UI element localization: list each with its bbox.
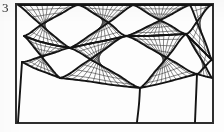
block-boundary <box>186 5 212 60</box>
edge-lower-left-diagonal <box>18 62 22 122</box>
figure-root: 3 <box>0 0 224 132</box>
edge-lower-right-drop <box>195 74 197 122</box>
block-boundary <box>60 36 140 88</box>
mesh-diagram <box>0 0 224 132</box>
block-boundary <box>126 5 190 36</box>
grid-line-v <box>155 35 170 85</box>
edge-lower-center-drop <box>137 88 140 122</box>
